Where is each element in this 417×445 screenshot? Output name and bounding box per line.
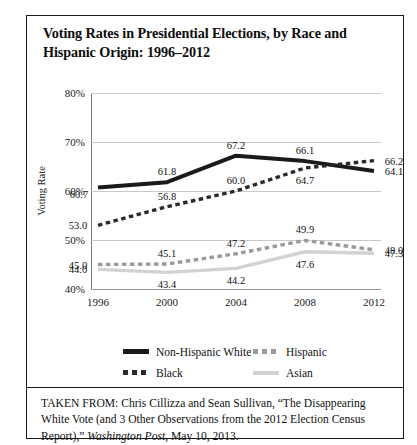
y-tick-label: 40% — [65, 283, 85, 295]
x-tick-label: 2000 — [156, 296, 178, 308]
series-lines — [91, 93, 381, 289]
legend-item-non-hispanic-white[interactable]: Non-Hispanic White — [123, 346, 253, 358]
figure-panel: Voting Rates in Presidential Elections, … — [26, 15, 404, 439]
point-value-label: 66.1 — [296, 145, 314, 156]
source-publication: Washington Post — [87, 430, 165, 443]
y-tick-label: 50% — [65, 234, 85, 246]
legend-label: Black — [156, 367, 183, 379]
point-value-label: 44.0 — [69, 264, 87, 275]
point-value-label: 44.2 — [227, 275, 245, 286]
point-value-label: 47.2 — [227, 237, 245, 248]
legend-label: Asian — [286, 367, 313, 379]
chart-legend: Non-Hispanic WhiteHispanicBlackAsian — [123, 341, 373, 383]
figure-title: Voting Rates in Presidential Elections, … — [43, 24, 383, 61]
point-value-label: 60.7 — [70, 188, 88, 199]
source-suffix: , May 10, 2013. — [165, 430, 238, 443]
series-line-black — [98, 161, 374, 226]
point-value-label: 61.8 — [158, 166, 176, 177]
legend-swatch-icon — [253, 349, 279, 354]
point-value-label: 49.9 — [296, 224, 314, 235]
legend-swatch-icon — [123, 349, 149, 354]
y-tick-label: 80% — [65, 87, 85, 99]
y-tick-label: 70% — [65, 136, 85, 148]
x-tick-label: 2008 — [294, 296, 316, 308]
point-value-label: 67.2 — [227, 139, 245, 150]
chart-area: Voting Rate 40%50%60%70%80% 199620002004… — [27, 78, 405, 333]
legend-item-hispanic[interactable]: Hispanic — [253, 346, 373, 358]
point-value-label: 56.8 — [158, 190, 176, 201]
point-value-label: 47.3 — [385, 248, 403, 259]
point-value-label: 43.4 — [158, 279, 176, 290]
point-value-label: 64.7 — [296, 174, 314, 185]
legend-swatch-icon — [253, 371, 279, 375]
point-value-label: 45.1 — [158, 248, 176, 259]
point-value-label: 53.0 — [69, 220, 87, 231]
point-value-label: 64.1 — [385, 165, 403, 176]
legend-label: Non-Hispanic White — [156, 346, 251, 358]
section-divider — [27, 387, 403, 388]
legend-item-asian[interactable]: Asian — [253, 367, 373, 379]
x-tick-label: 1996 — [87, 296, 109, 308]
legend-item-black[interactable]: Black — [123, 367, 253, 379]
y-axis-title: Voting Rate — [36, 166, 47, 216]
plot-region: 40%50%60%70%80% 19962000200420082012 60.… — [91, 93, 381, 289]
point-value-label: 66.2 — [385, 155, 403, 166]
gridline-40 — [91, 289, 381, 290]
point-value-label: 47.6 — [296, 258, 314, 269]
legend-label: Hispanic — [286, 346, 327, 358]
x-tick-label: 2004 — [225, 296, 247, 308]
point-value-label: 60.0 — [227, 175, 245, 186]
source-note: TAKEN FROM: Chris Cillizza and Sean Sull… — [41, 396, 391, 445]
legend-swatch-icon — [123, 370, 149, 375]
x-tick-label: 2012 — [363, 296, 385, 308]
